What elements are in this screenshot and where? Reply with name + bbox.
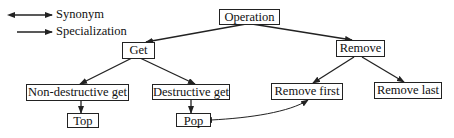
- node-non-destructive-get: Non-destructive get: [26, 84, 129, 101]
- node-remove-last: Remove last: [374, 82, 442, 99]
- edge-remove-removelast: [362, 57, 404, 82]
- legend-synonym-label: Synonym: [56, 7, 104, 22]
- node-remove: Remove: [336, 40, 385, 57]
- node-destructive-get: Destructive get: [152, 84, 230, 100]
- node-operation: Operation: [219, 9, 280, 25]
- node-remove-first: Remove first: [271, 83, 343, 100]
- legend-specialization-label: Specialization: [56, 24, 127, 39]
- node-top: Top: [67, 113, 99, 128]
- node-get: Get: [122, 42, 155, 59]
- edge-remove-removefirst: [313, 57, 354, 83]
- edge-operation-remove: [252, 24, 352, 40]
- edge-get-nondestructive: [80, 58, 132, 84]
- edge-operation-get: [146, 24, 246, 42]
- edge-pop-removefirst-synonym: [211, 100, 308, 120]
- node-pop: Pop: [176, 113, 211, 127]
- edge-get-destructive: [140, 58, 195, 84]
